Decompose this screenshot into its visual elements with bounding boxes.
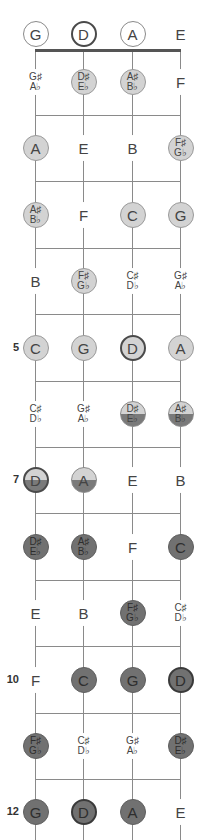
note-marker: F♯G♭ [71, 268, 97, 294]
note-marker: F [168, 69, 194, 95]
note-label: C [127, 208, 138, 223]
note-marker: D [168, 667, 194, 693]
string-line [83, 49, 84, 840]
fret-line [35, 381, 181, 382]
note-label: B♭ [78, 547, 90, 557]
note-label: D [127, 341, 138, 356]
note-marker: A♯B♭ [23, 202, 49, 228]
note-marker: F♯G♭ [120, 600, 146, 626]
note-label: E [30, 606, 40, 621]
note-marker: E [168, 799, 194, 825]
note-marker: G [120, 667, 146, 693]
fret-line [35, 779, 181, 780]
note-label: D♭ [77, 746, 89, 756]
note-label: E [175, 805, 185, 820]
note-marker: G♯A♭ [168, 268, 194, 294]
note-label: A♭ [175, 281, 187, 291]
note-marker: E [71, 135, 97, 161]
note-label: B♭ [30, 215, 42, 225]
note-label: A [30, 141, 40, 156]
note-label: G♭ [126, 613, 139, 623]
note-label: E [127, 473, 137, 488]
note-label: F [128, 540, 137, 555]
note-marker: D♯E♭ [23, 534, 49, 560]
note-marker: G♯A♭ [71, 401, 97, 427]
note-label: G [78, 341, 90, 356]
fret-line [35, 314, 181, 315]
note-marker: G♯A♭ [23, 69, 49, 95]
note-marker: G♯A♭ [120, 733, 146, 759]
note-marker: E [168, 21, 194, 47]
note-marker: D [71, 799, 97, 825]
note-marker: D [23, 467, 49, 493]
note-marker: B [71, 600, 97, 626]
note-label: B♭ [175, 414, 187, 424]
note-label: D [30, 473, 41, 488]
note-label: B [175, 473, 185, 488]
fret-line [35, 713, 181, 714]
fret-line [35, 248, 181, 249]
note-marker: F [120, 534, 146, 560]
note-label: B [78, 606, 88, 621]
note-label: E [175, 27, 185, 42]
fret-line [35, 115, 181, 116]
note-label: C [30, 341, 41, 356]
note-label: G♭ [174, 148, 187, 158]
string-line [180, 49, 181, 840]
note-label: G [30, 805, 42, 820]
note-label: E♭ [78, 82, 90, 92]
note-marker: A [120, 21, 146, 47]
note-label: D [78, 805, 89, 820]
note-marker: F [71, 202, 97, 228]
note-label: G [175, 208, 187, 223]
note-marker: A [71, 467, 97, 493]
note-label: B [30, 274, 40, 289]
note-marker: C [120, 202, 146, 228]
note-label: D♭ [126, 281, 138, 291]
note-marker: C♯D♭ [71, 733, 97, 759]
note-marker: F [23, 667, 49, 693]
note-label: D [78, 27, 89, 42]
note-marker: G [23, 799, 49, 825]
note-label: G [127, 673, 139, 688]
note-marker: B [120, 135, 146, 161]
note-marker: A♯B♭ [71, 534, 97, 560]
note-marker: A♯B♭ [120, 69, 146, 95]
fretboard-diagram: GDAEG♯A♭D♯E♭A♯B♭FAEBF♯G♭A♯B♭FCGBF♯G♭C♯D♭… [0, 0, 203, 840]
note-marker: A [23, 135, 49, 161]
note-marker: C♯D♭ [120, 268, 146, 294]
note-marker: B [23, 268, 49, 294]
note-label: E♭ [127, 414, 139, 424]
note-marker: E [120, 467, 146, 493]
note-label: G [30, 27, 42, 42]
string-line [35, 49, 36, 840]
note-label: A♭ [78, 414, 90, 424]
note-marker: D [71, 21, 97, 47]
note-marker: A [120, 799, 146, 825]
note-label: A♭ [127, 746, 139, 756]
fret-number-label: 5 [3, 341, 19, 353]
note-marker: D♯E♭ [168, 733, 194, 759]
note-marker: C♯D♭ [23, 401, 49, 427]
note-label: G♭ [29, 746, 42, 756]
fret-line [35, 646, 181, 647]
note-marker: G [71, 335, 97, 361]
note-label: F [31, 673, 40, 688]
note-label: G♭ [77, 281, 90, 291]
note-label: A [78, 473, 88, 488]
note-label: A [127, 27, 137, 42]
note-label: D♭ [29, 414, 41, 424]
note-marker: C [23, 335, 49, 361]
note-label: D♭ [174, 613, 186, 623]
note-marker: G [168, 202, 194, 228]
note-marker: C♯D♭ [168, 600, 194, 626]
note-label: A [127, 805, 137, 820]
string-line [132, 49, 133, 840]
note-label: E♭ [30, 547, 42, 557]
note-label: E [78, 141, 88, 156]
note-marker: D♯E♭ [120, 401, 146, 427]
note-marker: D♯E♭ [71, 69, 97, 95]
note-label: A♭ [30, 82, 42, 92]
note-marker: C [168, 534, 194, 560]
note-label: C [175, 540, 186, 555]
